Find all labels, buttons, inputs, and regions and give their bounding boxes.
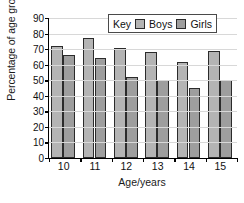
x-tick-label-14: 14 [174, 160, 204, 172]
y-tick-mark [45, 127, 49, 128]
gridline [49, 49, 237, 50]
y-tick-mark [45, 111, 49, 112]
bar-girls-age-15 [220, 80, 232, 158]
chart-legend: Key Boys Girls [108, 14, 217, 33]
x-axis-label: Age/years [48, 176, 236, 188]
x-tick-label-12: 12 [111, 160, 141, 172]
y-tick-mark [45, 80, 49, 81]
legend-swatch-girls [176, 19, 186, 29]
bar-group [49, 18, 80, 158]
bar-group [112, 18, 143, 158]
bar-group [174, 18, 205, 158]
gridline [49, 96, 237, 97]
bar-girls-age-13 [157, 80, 169, 158]
bar-girls-age-12 [126, 77, 138, 158]
legend-label-girls: Girls [190, 18, 212, 30]
bar-boys-age-14 [177, 62, 189, 158]
y-tick-mark [45, 49, 49, 50]
gridline [49, 111, 237, 112]
y-tick-label: 40 [24, 90, 44, 101]
gridline [49, 34, 237, 35]
bar-girls-age-14 [189, 88, 201, 158]
bar-chart: Percentage of age group 0102030405060708… [0, 0, 244, 203]
y-tick-label: 80 [24, 28, 44, 39]
gridline [49, 80, 237, 81]
y-axis-tick-labels: 0102030405060708090 [22, 0, 44, 203]
y-tick-label: 50 [24, 75, 44, 86]
gridline [49, 142, 237, 143]
legend-label-boys: Boys [149, 18, 172, 30]
x-tick-label-10: 10 [49, 160, 79, 172]
y-tick-label: 20 [24, 121, 44, 132]
legend-key-label: Key [113, 18, 131, 30]
x-tick-label-13: 13 [143, 160, 173, 172]
x-tick-mark [237, 158, 238, 162]
y-tick-label: 60 [24, 59, 44, 70]
bar-boys-age-10 [51, 46, 63, 158]
y-tick-label: 30 [24, 106, 44, 117]
y-tick-label: 90 [24, 13, 44, 24]
bar-boys-age-11 [83, 38, 95, 158]
y-tick-mark [45, 96, 49, 97]
y-tick-mark [45, 142, 49, 143]
y-tick-label: 10 [24, 137, 44, 148]
bar-group [206, 18, 237, 158]
plot-area [48, 18, 237, 159]
y-tick-mark [45, 18, 49, 19]
gridline [49, 65, 237, 66]
gridline [49, 127, 237, 128]
legend-swatch-boys [135, 19, 145, 29]
y-tick-mark [45, 34, 49, 35]
bar-series-container [49, 18, 237, 158]
x-tick-label-11: 11 [80, 160, 110, 172]
x-tick-label-15: 15 [205, 160, 235, 172]
x-axis-tick-labels: 101112131415 [48, 160, 236, 176]
y-tick-label: 70 [24, 44, 44, 55]
y-tick-mark [45, 65, 49, 66]
y-axis-label: Percentage of age group [5, 0, 21, 114]
bar-group [80, 18, 111, 158]
y-tick-label: 0 [24, 153, 44, 164]
bar-group [143, 18, 174, 158]
